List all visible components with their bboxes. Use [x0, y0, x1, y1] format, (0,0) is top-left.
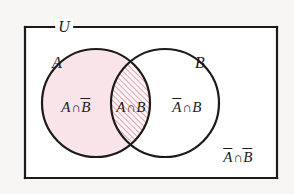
universe-label: U: [55, 19, 73, 35]
venn-diagram-figure: U A B A∩B A∩B A∩B A∩B: [0, 0, 294, 194]
venn-diagram-canvas: [0, 0, 294, 194]
